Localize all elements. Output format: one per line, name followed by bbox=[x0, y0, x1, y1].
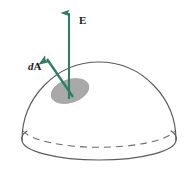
area-vector-label: dA bbox=[28, 60, 42, 72]
area-vector-label-a: A bbox=[34, 60, 42, 72]
field-vector-label: E bbox=[79, 14, 86, 26]
figure-background bbox=[0, 0, 188, 175]
physics-figure-canvas: E dA bbox=[0, 0, 188, 175]
hemisphere-flux-diagram: E dA bbox=[0, 0, 188, 175]
